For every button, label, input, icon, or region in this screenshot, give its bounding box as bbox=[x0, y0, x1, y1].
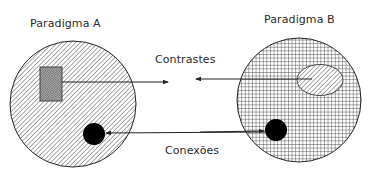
paradigm-a-contrast-element bbox=[40, 67, 62, 101]
paradigm-b-label: Paradigma B bbox=[264, 13, 335, 26]
paradigm-a-label: Paradigma A bbox=[30, 17, 101, 30]
paradigm-a-circle bbox=[10, 41, 136, 167]
paradigm-b-circle bbox=[237, 38, 361, 162]
connections-label: Conexões bbox=[165, 144, 219, 157]
contrasts-label: Contrastes bbox=[155, 53, 216, 66]
paradigm-a-connection-dot bbox=[83, 123, 105, 145]
paradigm-b-connection-dot bbox=[265, 119, 287, 141]
paradigm-b-contrast-element bbox=[297, 65, 343, 96]
